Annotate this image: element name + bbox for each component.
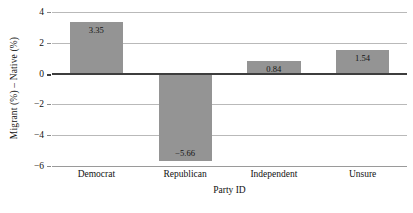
- plot-area: 420−2−4−6 3.35−5.660.841.54: [52, 12, 407, 166]
- x-axis-ticks-group: DemocratRepublicanIndependentUnsure: [52, 169, 407, 185]
- y-axis-title: Migrant (%) – Native (%): [9, 8, 19, 168]
- x-tick-label: Independent: [250, 169, 297, 179]
- y-tick-mark: [47, 12, 51, 13]
- y-tick-label: 2: [39, 38, 44, 48]
- x-axis-title: Party ID: [52, 185, 407, 195]
- y-tick-mark: [47, 166, 51, 167]
- x-axis-line: [52, 166, 407, 167]
- bar-value-label: 1.54: [336, 53, 389, 63]
- bars-group: 3.35−5.660.841.54: [52, 12, 407, 166]
- x-tick-label: Democrat: [78, 169, 115, 179]
- y-tick-mark: [47, 43, 51, 44]
- y-tick-mark: [47, 104, 51, 105]
- y-tick-label: −2: [34, 99, 44, 109]
- y-tick-label: −4: [34, 130, 44, 140]
- y-tick-mark: [47, 74, 51, 76]
- x-tick-label: Republican: [163, 169, 206, 179]
- x-tick-label: Unsure: [349, 169, 376, 179]
- bar-value-label: −5.66: [159, 148, 212, 158]
- y-tick-label: 4: [39, 7, 44, 17]
- y-tick-label: 0: [39, 69, 44, 79]
- y-tick-mark: [47, 135, 51, 136]
- bar-chart-figure: Migrant (%) – Native (%) 420−2−4−6 3.35−…: [0, 0, 413, 213]
- bar-value-label: 3.35: [70, 25, 123, 35]
- y-tick-label: −6: [34, 161, 44, 171]
- zero-line: [52, 73, 407, 75]
